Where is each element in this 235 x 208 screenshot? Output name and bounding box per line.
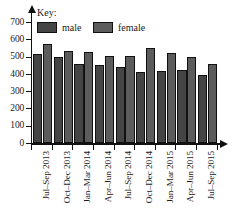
x-category-label: Oct–Dec 2013 [63, 151, 72, 203]
bar-male [54, 57, 63, 143]
bar-female [208, 64, 217, 143]
x-tick [72, 145, 73, 150]
x-tick [155, 145, 156, 150]
y-tick [26, 91, 32, 92]
bar-female [105, 56, 114, 143]
x-category-label: Jul–Sep 2014 [124, 151, 133, 200]
bar-female [84, 52, 93, 143]
x-tick [175, 145, 176, 150]
bar-male [74, 64, 83, 143]
bar-female [43, 44, 52, 143]
x-axis-line [31, 143, 221, 144]
y-tick-label: 700 [0, 18, 24, 28]
bar-male [95, 65, 104, 144]
x-category-label: Apr–Jun 2015 [186, 151, 195, 202]
bar-male [136, 72, 145, 144]
y-tick-label: 0 [0, 139, 24, 149]
y-tick [26, 22, 32, 23]
y-axis-line [31, 12, 32, 144]
bar-female [167, 53, 176, 143]
x-category-label: Oct–Dec 2014 [145, 151, 154, 203]
legend-swatch-female-icon [93, 22, 113, 33]
legend-label-male: male [62, 23, 81, 33]
y-tick-label: 100 [0, 121, 24, 131]
bar-male [157, 71, 166, 143]
y-tick-label: 200 [0, 104, 24, 114]
legend-title: Key: [37, 8, 56, 18]
bar-female [146, 48, 155, 143]
y-axis-arrow-icon [28, 5, 36, 13]
y-tick-label: 300 [0, 87, 24, 97]
bar-female [125, 56, 134, 143]
x-tick [196, 145, 197, 150]
x-category-label: Jul–Sep 2013 [42, 151, 51, 200]
y-tick [26, 126, 32, 127]
y-tick [26, 39, 32, 40]
y-tick [26, 74, 32, 75]
x-tick [93, 145, 94, 150]
x-axis-arrow-icon [220, 140, 228, 148]
bar-male [198, 75, 207, 143]
y-tick-label: 400 [0, 70, 24, 80]
y-tick [26, 57, 32, 58]
legend-label-female: female [118, 23, 145, 33]
bar-chart: 0100200300400500600700 Jul–Sep 2013Oct–D… [0, 0, 235, 208]
x-tick [134, 145, 135, 150]
y-tick [26, 108, 32, 109]
x-category-label: Jan–Mar 2015 [166, 151, 175, 203]
x-category-label: Jul–Sep 2015 [207, 151, 216, 200]
bar-female [187, 57, 196, 143]
x-category-label: Apr–Jun 2014 [104, 151, 113, 202]
x-tick [114, 145, 115, 150]
bar-male [33, 54, 42, 144]
bar-female [64, 51, 73, 144]
x-category-label: Jan–Mar 2014 [83, 151, 92, 203]
x-tick [217, 145, 218, 150]
bar-male [177, 70, 186, 143]
bar-male [116, 67, 125, 144]
x-tick [31, 145, 32, 150]
legend-swatch-male-icon [37, 22, 57, 33]
y-tick-label: 500 [0, 52, 24, 62]
y-tick-label: 600 [0, 35, 24, 45]
x-tick [52, 145, 53, 150]
